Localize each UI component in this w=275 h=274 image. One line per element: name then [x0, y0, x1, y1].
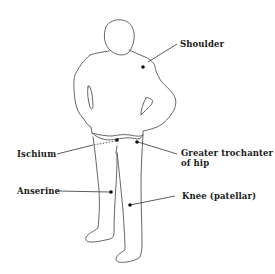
left-arm-gap: [88, 86, 93, 109]
anserine-label: Anserine: [17, 186, 60, 196]
head-outline: [104, 20, 134, 55]
shoulder-leader-line: [148, 44, 177, 62]
greater-trochanter-label-line2: of hip: [181, 158, 209, 168]
left-leg-outline: [86, 137, 117, 242]
ischium-label: Ischium: [17, 149, 56, 159]
knee-marker: [128, 203, 132, 207]
human-figure-illustration: [0, 0, 275, 274]
knee-leader-line: [130, 196, 175, 205]
inner-thigh-line: [116, 146, 117, 153]
shoulder-label: Shoulder: [180, 39, 224, 49]
trochanter-marker: [135, 140, 139, 144]
ischium-dashed-line: [93, 141, 116, 145]
anserine-leader-line: [57, 191, 110, 192]
shoulder-marker: [141, 65, 145, 69]
anserine-marker: [109, 190, 113, 194]
trochanter-leader-line: [138, 142, 177, 154]
torso-outline: [74, 50, 176, 136]
ischium-leader-line: [57, 145, 93, 154]
diagram-canvas: Shoulder Ischium Greater trochanter of h…: [0, 0, 275, 274]
right-leg-outline: [116, 135, 143, 262]
ischium-marker: [115, 138, 119, 142]
right-arm-gap: [141, 98, 153, 115]
greater-trochanter-label: Greater trochanter: [181, 148, 273, 158]
knee-label: Knee (patellar): [182, 191, 256, 201]
